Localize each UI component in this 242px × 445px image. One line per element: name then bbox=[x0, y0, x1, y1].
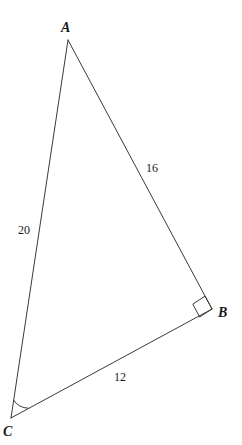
side-ab-line bbox=[68, 40, 212, 309]
vertex-label-b: B bbox=[218, 306, 227, 320]
angle-arc-marker-c bbox=[14, 400, 29, 408]
vertex-label-a: A bbox=[61, 21, 70, 35]
side-length-label-ac: 20 bbox=[18, 224, 30, 236]
side-cb-line bbox=[11, 309, 212, 418]
geometry-figure: A B C 16 20 12 bbox=[0, 0, 242, 445]
vertex-label-c: C bbox=[3, 425, 12, 439]
side-length-label-cb: 12 bbox=[114, 371, 126, 383]
side-length-label-ab: 16 bbox=[146, 162, 158, 174]
